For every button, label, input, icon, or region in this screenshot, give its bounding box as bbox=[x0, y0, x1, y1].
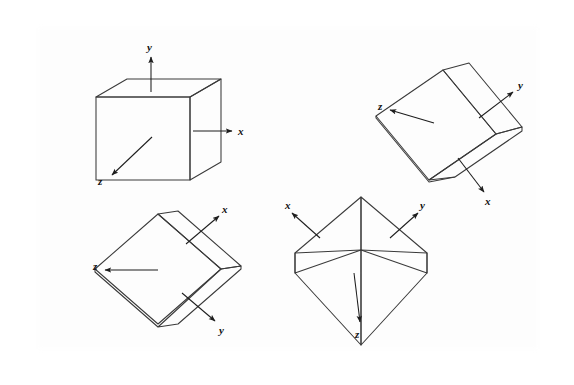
cube4-label-z: z bbox=[354, 328, 360, 340]
cube-diagram-canvas: y x z y x z x y z x y z bbox=[0, 0, 574, 385]
cube4-right-face bbox=[361, 250, 427, 345]
cube-front-view bbox=[96, 79, 221, 180]
cube4-left-face bbox=[295, 250, 361, 345]
cube3-label-x: x bbox=[221, 203, 228, 215]
cube2-axis-z bbox=[390, 110, 434, 123]
cube-corner-on-lower-right bbox=[295, 197, 427, 345]
cube2-label-z: z bbox=[377, 100, 383, 112]
cube2-axis-x bbox=[458, 158, 484, 192]
cube3-label-y: y bbox=[217, 324, 224, 336]
cube3-top-face bbox=[158, 211, 241, 269]
cube4-axis-x bbox=[292, 213, 320, 238]
cube1-top-face bbox=[96, 79, 221, 97]
scanned-figure-page: y x z y x z x y z x y z bbox=[0, 0, 574, 385]
cube1-label-x: x bbox=[237, 125, 244, 137]
cube-rotated-lower-left bbox=[95, 211, 241, 327]
cube3-axis-x bbox=[186, 216, 219, 244]
cube1-axis-z bbox=[112, 137, 152, 175]
cube1-front-face bbox=[96, 97, 190, 180]
cube-rotated-upper-right bbox=[376, 63, 522, 182]
cube2-top-face bbox=[443, 63, 522, 134]
cube4-axis-z bbox=[354, 273, 360, 322]
cube2-main-face bbox=[376, 70, 496, 180]
cube2-lower-face bbox=[376, 116, 455, 182]
cube2-label-x: x bbox=[484, 195, 491, 207]
cube1-label-z: z bbox=[97, 175, 103, 187]
cube3-label-z: z bbox=[92, 260, 98, 272]
cube3-bottom-face bbox=[158, 266, 241, 327]
cube2-right-face bbox=[429, 127, 522, 180]
cube1-right-face bbox=[190, 79, 221, 180]
cube4-label-x: x bbox=[284, 199, 291, 211]
cube2-label-y: y bbox=[516, 79, 523, 91]
cube4-label-y: y bbox=[418, 199, 425, 211]
cube1-label-y: y bbox=[145, 41, 152, 53]
cube4-left-top-face bbox=[295, 197, 361, 273]
